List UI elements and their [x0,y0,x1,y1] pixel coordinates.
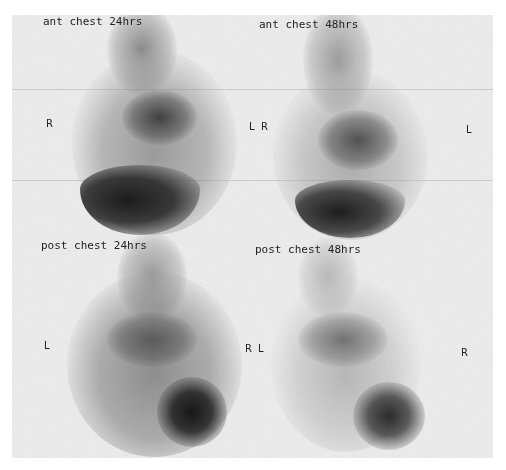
liver-uptake [157,377,227,447]
panel-post-chest-24hrs: post chest 24hrs L R [12,237,252,458]
orientation-marker-right: R [461,347,468,358]
orientation-marker-left: L [258,343,264,354]
panel-ant-chest-48hrs: ant chest 48hrs R L [253,15,493,236]
orientation-marker-left: R [46,118,53,129]
panel-ant-chest-24hrs: ant chest 24hrs R L [12,15,252,236]
heart-uptake [107,312,197,367]
orientation-marker-left: R [261,121,268,132]
orientation-marker-right: L [249,121,255,132]
scintigraphy-image: ant chest 24hrs R L ant chest 48hrs R L … [12,15,493,458]
panel-title: ant chest 48hrs [259,18,358,31]
panel-title: post chest 24hrs [41,239,147,252]
liver-uptake [295,180,405,238]
panel-title: ant chest 24hrs [43,15,142,28]
liver-uptake [353,382,425,450]
panel-post-chest-48hrs: post chest 48hrs L R [253,237,493,458]
orientation-marker-right: L [466,124,472,135]
heart-uptake [298,312,388,367]
heart-uptake [122,90,197,145]
heart-uptake [318,110,398,170]
orientation-marker-left: L [44,340,50,351]
orientation-marker-right: R [245,343,252,354]
panel-title: post chest 48hrs [255,243,361,256]
